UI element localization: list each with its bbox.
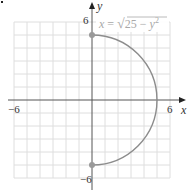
equation-label: x = √25 − y2 [98, 16, 159, 31]
semicircle-graph: x = √25 − y2 −6 6 x 6 −6 y [0, 0, 190, 194]
endpoint-bottom [89, 162, 95, 168]
y-min-label: −6 [80, 173, 92, 185]
x-axis-label: x [180, 103, 187, 117]
x-min-label: −6 [8, 103, 20, 115]
y-max-label: 6 [83, 14, 89, 26]
equation-equals: = [104, 17, 117, 31]
equation-radicand: 25 − [125, 17, 150, 31]
endpoint-top [89, 32, 95, 38]
y-axis-arrow-icon [89, 2, 95, 9]
y-axis-label: y [96, 0, 103, 13]
x-max-label: 6 [167, 103, 173, 115]
